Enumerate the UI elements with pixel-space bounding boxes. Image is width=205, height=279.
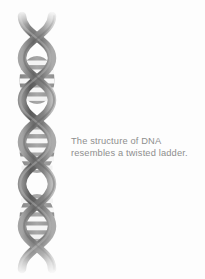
caption-text: The structure of DNA resembles a twisted… [71, 136, 199, 159]
dna-double-helix-illustration [6, 10, 68, 275]
illustration-page: The structure of DNA resembles a twisted… [0, 0, 205, 279]
